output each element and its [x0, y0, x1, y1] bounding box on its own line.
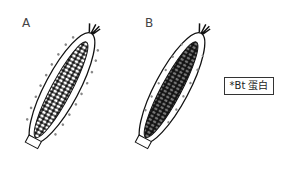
legend-bt-protein: *Bt 蛋白	[224, 77, 274, 95]
corn-ear-a	[13, 14, 115, 155]
corn-ear-b	[126, 16, 220, 153]
